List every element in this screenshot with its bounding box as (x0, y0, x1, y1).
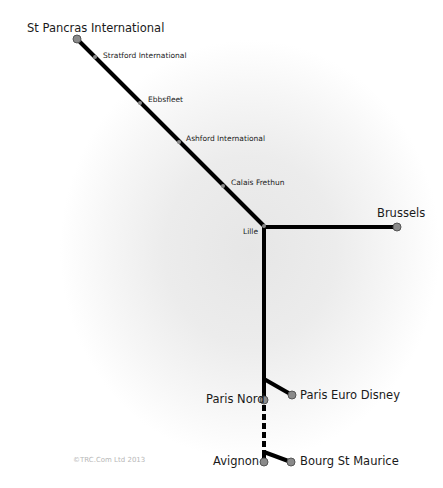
label-paris-euro-disney: Paris Euro Disney (300, 390, 400, 402)
station-dot-st-pancras[interactable] (73, 35, 81, 43)
label-ashford: Ashford International (186, 135, 265, 143)
label-calais: Calais Frethun (231, 179, 284, 187)
label-lille: Lille (243, 228, 258, 236)
copyright-text: ©TRC.Com Ltd 2013 (73, 456, 145, 464)
label-avignon: Avignon (213, 456, 259, 468)
station-dot-calais[interactable] (221, 184, 225, 188)
line-branch-disney (264, 379, 292, 395)
station-dot-ashford[interactable] (177, 140, 181, 144)
route-lines (0, 0, 443, 488)
label-bourg-st-maurice: Bourg St Maurice (300, 456, 399, 468)
station-dot-avignon[interactable] (260, 458, 268, 466)
label-st-pancras: St Pancras International (27, 23, 164, 35)
label-paris-nord: Paris Nord (206, 394, 265, 406)
station-dot-ebbsfleet[interactable] (138, 101, 142, 105)
station-dot-bourg-st-maurice[interactable] (287, 458, 295, 466)
station-dot-lille[interactable] (262, 224, 266, 228)
label-ebbsfleet: Ebbsfleet (148, 96, 183, 104)
label-brussels: Brussels (377, 208, 425, 220)
station-dot-brussels[interactable] (393, 223, 401, 231)
label-stratford: Stratford International (103, 52, 187, 60)
station-dot-paris-euro-disney[interactable] (288, 391, 296, 399)
line-london-lille (77, 39, 264, 226)
station-dot-stratford[interactable] (93, 55, 97, 59)
